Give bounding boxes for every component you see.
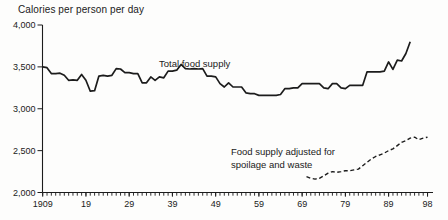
x-axis-tick-label: 19 [81,199,91,209]
y-axis-tick-label: 4,000 [13,20,36,30]
annotation-total-food-supply: Total food supply [159,58,230,71]
annotation-adjusted-line2: spoilage and waste [231,159,335,172]
x-axis-tick-label: 1909 [33,199,53,209]
x-axis-tick-label: 69 [297,199,307,209]
y-axis-tick-label: 3,500 [13,62,36,72]
x-axis-tick-label: 49 [211,199,221,209]
chart-figure: Calories per person per day 4,0003,5003,… [0,0,448,220]
x-axis-tick-label: 59 [254,199,264,209]
y-axis-tick-label: 2,500 [13,146,36,156]
annotation-food-supply-adjusted: Food supply adjusted for spoilage and wa… [231,146,335,171]
annotation-adjusted-line1: Food supply adjusted for [231,146,335,159]
x-axis-tick-label: 89 [384,199,394,209]
plot-area: 4,0003,5003,0002,5002,000190919293949596… [0,0,448,220]
y-axis-tick-label: 3,000 [13,104,36,114]
x-axis-tick-label: 98 [423,199,433,209]
x-axis-tick-label: 79 [340,199,350,209]
y-axis-tick-label: 2,000 [13,188,36,198]
x-axis-tick-label: 39 [167,199,177,209]
x-axis-tick-label: 29 [124,199,134,209]
